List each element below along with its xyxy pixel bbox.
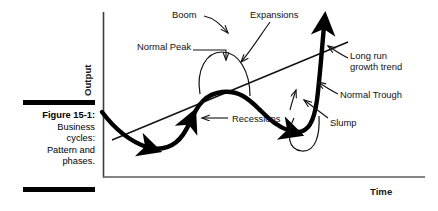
slump-region-outline xyxy=(289,116,319,151)
label-normal-trough: Normal Trough xyxy=(340,89,402,100)
long-run-line-1: Long run xyxy=(350,50,387,61)
y-axis-title: Output xyxy=(82,65,93,96)
caption-rule-bottom xyxy=(23,187,95,192)
label-recessions: Recessions xyxy=(232,113,280,124)
label-slump: Slump xyxy=(330,117,357,128)
long-run-line-2: growth trend xyxy=(350,61,402,72)
label-expansions: Expansions xyxy=(250,9,298,20)
leader-expansions xyxy=(241,22,270,62)
cycle-segment-expansion-1a xyxy=(154,122,190,149)
caption-line-2: cycles: xyxy=(0,133,95,145)
caption-line-1: Business xyxy=(0,122,95,134)
cycle-segment-recession-1 xyxy=(102,112,148,148)
cycle-segment-expansion-2 xyxy=(296,26,324,132)
label-normal-peak: Normal Peak xyxy=(137,41,191,52)
label-boom: Boom xyxy=(172,9,197,20)
caption-rule-top xyxy=(23,100,95,105)
leader-long-run-growth-trend xyxy=(328,46,348,58)
label-long-run-growth-trend: Long run growth trend xyxy=(350,50,402,72)
leader-trough-secondary xyxy=(290,90,296,110)
leader-normal-trough xyxy=(318,82,338,94)
figure-page: Figure 15-1: Business cycles: Pattern an… xyxy=(0,0,438,211)
x-axis-title: Time xyxy=(370,186,392,197)
chart-svg xyxy=(98,0,438,211)
figure-caption-block: Figure 15-1: Business cycles: Pattern an… xyxy=(0,96,98,194)
business-cycle-chart: Output Time Boom Expansions Normal Peak … xyxy=(98,0,438,211)
leader-boom xyxy=(204,16,228,33)
caption-line-3: Pattern and xyxy=(0,145,95,157)
boom-region-outline xyxy=(199,52,250,96)
figure-caption-text: Figure 15-1: Business cycles: Pattern an… xyxy=(0,110,95,168)
figure-number-label: Figure 15-1: xyxy=(0,110,95,122)
caption-line-4: phases. xyxy=(0,156,95,168)
